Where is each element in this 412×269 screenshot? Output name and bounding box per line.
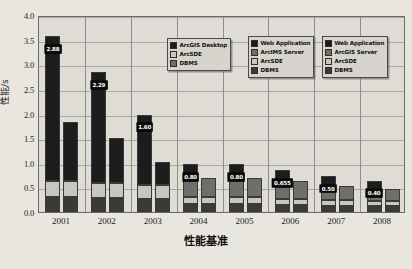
bar-segment-arcsde — [321, 200, 336, 205]
bar-segment-arcsde — [385, 201, 400, 206]
legend-swatch-icon — [251, 49, 258, 56]
bar-segment-arcsde — [339, 200, 354, 205]
bar-segment-arcsde — [247, 197, 262, 204]
bar-2002-2 — [109, 138, 124, 212]
y-tick-2.0: 2.0 — [0, 110, 34, 119]
bar-segment-arcsde — [45, 181, 60, 197]
bar-segment-arcgis-server — [293, 181, 308, 199]
data-label-2004: 0.80 — [182, 172, 199, 181]
bar-segment-arcgis-desktop — [63, 122, 78, 181]
x-tick-2002: 2002 — [84, 216, 130, 226]
legend-swatch-icon — [170, 60, 177, 67]
x-tick-2005: 2005 — [222, 216, 268, 226]
legend-swatch-icon — [170, 51, 177, 58]
x-axis-title: 性能基准 — [0, 232, 412, 248]
legend-label: DBMS — [335, 68, 353, 74]
y-tick-3.0: 3.0 — [0, 61, 34, 70]
bar-2004-2 — [201, 178, 216, 212]
bar-segment-dbms — [183, 204, 198, 212]
legend-entry: Web Application — [251, 39, 310, 48]
x-tick-2006: 2006 — [267, 216, 313, 226]
legend-label: Web Application — [335, 41, 385, 47]
legend-entry: ArcSDE — [170, 50, 227, 59]
bar-segment-arcsde — [63, 181, 78, 197]
x-tick-2004: 2004 — [176, 216, 222, 226]
bar-segment-arcsde — [201, 197, 216, 204]
bar-segment-arcgis-server — [339, 186, 354, 200]
bar-segment-arcsde — [109, 183, 124, 198]
bar-segment-dbms — [155, 199, 170, 212]
legend-arcgis-server: Web ApplicationArcGIS ServerArcSDEDBMS — [322, 36, 388, 78]
y-tick-4.0: 4.0 — [0, 12, 34, 21]
data-label-2003: 1.60 — [136, 123, 153, 132]
data-label-2001: 2.88 — [45, 44, 62, 53]
bar-segment-arcsde — [367, 201, 382, 206]
bar-segment-arcgis-server — [385, 189, 400, 201]
legend-swatch-icon — [251, 67, 258, 74]
bar-2007-1 — [321, 176, 336, 212]
bar-2008-2 — [385, 189, 400, 212]
x-tick-2003: 2003 — [130, 216, 176, 226]
bar-2006-1 — [275, 170, 290, 212]
y-axis-title: 性能/s — [0, 79, 11, 105]
data-label-2005: 0.80 — [228, 172, 245, 181]
bar-segment-dbms — [63, 197, 78, 212]
legend-label: DBMS — [180, 61, 198, 67]
bar-segment-dbms — [275, 205, 290, 212]
y-tick-3.5: 3.5 — [0, 36, 34, 45]
legend-entry: DBMS — [170, 59, 227, 68]
bar-segment-dbms — [137, 199, 152, 212]
bar-segment-arcgis-desktop — [109, 138, 124, 183]
legend-swatch-icon — [325, 40, 332, 47]
data-label-2002: 2.29 — [90, 81, 107, 90]
bar-2005-1 — [229, 164, 244, 212]
bar-segment-dbms — [385, 206, 400, 212]
chart-container: 2.882.291.600.800.800.6550.500.40 0.00.5… — [0, 0, 412, 269]
x-tick-2008: 2008 — [359, 216, 405, 226]
legend-entry: ArcSDE — [325, 57, 384, 66]
group-divider — [85, 17, 86, 212]
bar-segment-web-application — [367, 181, 382, 190]
bar-segment-dbms — [247, 204, 262, 212]
bar-segment-arcims-server — [247, 178, 262, 198]
bar-2003-2 — [155, 162, 170, 212]
legend-entry: ArcSDE — [251, 57, 310, 66]
bar-2006-2 — [293, 181, 308, 212]
legend-arcims: Web ApplicationArcIMS ServerArcSDEDBMS — [248, 36, 314, 78]
legend-entry: Web Application — [325, 39, 384, 48]
legend-label: ArcSDE — [180, 52, 202, 58]
legend-label: ArcSDE — [335, 59, 357, 65]
bar-segment-dbms — [321, 206, 336, 212]
bar-2004-1 — [183, 164, 198, 212]
legend-label: DBMS — [261, 68, 279, 74]
y-tick-0.5: 0.5 — [0, 184, 34, 193]
bar-segment-arcims-server — [201, 178, 216, 198]
y-tick-1.0: 1.0 — [0, 160, 34, 169]
legend-swatch-icon — [251, 40, 258, 47]
bar-segment-arcsde — [275, 199, 290, 205]
legend-entry: ArcIMS Server — [251, 48, 310, 57]
legend-entry: ArcGIS Server — [325, 48, 384, 57]
legend-label: ArcGIS Desktop — [180, 43, 228, 49]
bar-2005-2 — [247, 178, 262, 212]
data-label-2007: 0.50 — [320, 184, 337, 193]
bar-2001-2 — [63, 122, 78, 212]
bar-segment-arcsde — [91, 183, 106, 198]
legend-label: ArcGIS Server — [335, 50, 378, 56]
bar-2002-1 — [91, 72, 106, 212]
bar-segment-dbms — [293, 205, 308, 212]
y-axis-title-text: 性能/s — [0, 79, 10, 105]
y-tick-0.0: 0.0 — [0, 209, 34, 218]
legend-arcgis-desktop: ArcGIS DesktopArcSDEDBMS — [167, 38, 231, 71]
bar-segment-arcsde — [229, 197, 244, 204]
x-tick-2001: 2001 — [38, 216, 84, 226]
legend-label: ArcIMS Server — [261, 50, 305, 56]
legend-swatch-icon — [251, 58, 258, 65]
legend-swatch-icon — [325, 67, 332, 74]
bar-segment-arcgis-desktop — [155, 162, 170, 186]
legend-swatch-icon — [170, 42, 177, 49]
legend-swatch-icon — [325, 49, 332, 56]
bar-segment-arcims-server — [183, 179, 198, 198]
legend-entry: ArcGIS Desktop — [170, 41, 227, 50]
bar-segment-dbms — [339, 206, 354, 212]
